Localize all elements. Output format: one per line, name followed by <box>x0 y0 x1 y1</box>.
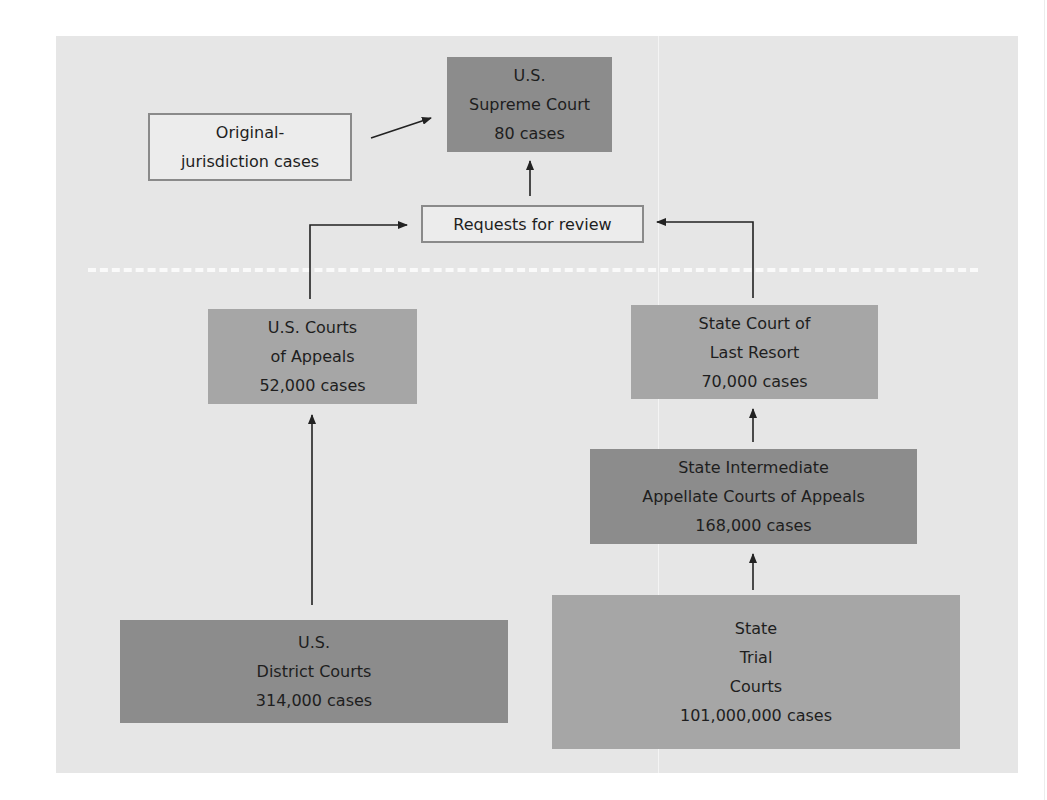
node-original-jurisdiction: Original- jurisdiction cases <box>148 113 352 181</box>
arrow-original-to-supreme <box>371 118 431 138</box>
trial-line-1: State <box>735 614 777 643</box>
appeals-line-2: of Appeals <box>270 342 354 371</box>
node-state-court-last-resort: State Court of Last Resort 70,000 cases <box>631 305 878 399</box>
node-state-intermediate-appellate: State Intermediate Appellate Courts of A… <box>590 449 917 544</box>
supreme-court-line-2: Supreme Court <box>469 90 590 119</box>
appeals-cases: 52,000 cases <box>259 371 365 400</box>
original-jurisdiction-line-1: Original- <box>216 118 284 147</box>
supreme-court-cases: 80 cases <box>494 119 565 148</box>
last-resort-line-1: State Court of <box>699 309 811 338</box>
original-jurisdiction-line-2: jurisdiction cases <box>181 147 319 176</box>
intermediate-line-2: Appellate Courts of Appeals <box>642 482 865 511</box>
node-us-district-courts: U.S. District Courts 314,000 cases <box>120 620 508 723</box>
last-resort-line-2: Last Resort <box>710 338 800 367</box>
trial-cases: 101,000,000 cases <box>680 701 832 730</box>
requests-for-review-label: Requests for review <box>453 210 611 239</box>
intermediate-line-1: State Intermediate <box>678 453 829 482</box>
appeals-line-1: U.S. Courts <box>268 313 357 342</box>
supreme-court-line-1: U.S. <box>513 61 545 90</box>
district-line-2: District Courts <box>257 657 372 686</box>
node-requests-for-review: Requests for review <box>421 205 644 243</box>
district-cases: 314,000 cases <box>256 686 372 715</box>
intermediate-cases: 168,000 cases <box>695 511 811 540</box>
node-supreme-court: U.S. Supreme Court 80 cases <box>447 57 612 152</box>
trial-line-3: Courts <box>730 672 782 701</box>
trial-line-2: Trial <box>740 643 773 672</box>
arrow-lastresort-to-requests <box>657 222 753 298</box>
node-us-courts-of-appeals: U.S. Courts of Appeals 52,000 cases <box>208 309 417 404</box>
node-state-trial-courts: State Trial Courts 101,000,000 cases <box>552 595 960 749</box>
district-line-1: U.S. <box>298 628 330 657</box>
arrow-appeals-to-requests <box>310 225 407 299</box>
last-resort-cases: 70,000 cases <box>701 367 807 396</box>
